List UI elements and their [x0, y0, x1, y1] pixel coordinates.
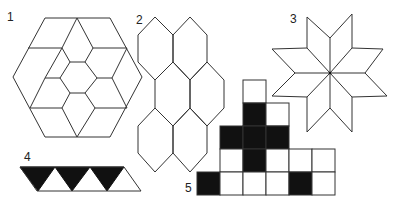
black-square — [220, 126, 243, 149]
black-triangle — [20, 167, 55, 191]
white-square — [312, 149, 335, 172]
hexagon-cell — [173, 108, 207, 172]
black-triangle — [55, 167, 90, 191]
star-center-dot — [329, 72, 332, 75]
hexagon-cell — [190, 62, 224, 126]
hexagon-cell — [138, 108, 173, 172]
black-triangle — [90, 167, 124, 191]
center-hexagon — [60, 62, 97, 93]
figure-2-label: 2 — [136, 13, 143, 27]
white-square — [312, 172, 335, 195]
figure-3-label: 3 — [290, 12, 297, 26]
black-square — [243, 149, 266, 172]
inner-rhombus-lines — [28, 18, 127, 137]
white-square — [243, 172, 266, 195]
hexagon-cell — [155, 62, 190, 126]
figure-1-hexagon-rhombus-tiling: 1 — [7, 10, 142, 137]
figure-2-honeycomb: 2 — [136, 13, 224, 172]
figure-4-label: 4 — [24, 150, 31, 164]
figure-1-label: 1 — [7, 10, 14, 24]
grid-cells — [197, 80, 335, 195]
black-square — [266, 126, 289, 149]
white-square — [266, 149, 289, 172]
figure-5-label: 5 — [185, 181, 192, 195]
white-square — [220, 172, 243, 195]
outer-hexagon — [13, 18, 142, 137]
white-square — [266, 172, 289, 195]
white-square — [289, 149, 312, 172]
black-square — [289, 172, 312, 195]
black-square — [243, 126, 266, 149]
tiling-diagram: 1 2 3 — [0, 0, 402, 210]
hexagon-cell — [173, 17, 207, 80]
hexagon-cell — [138, 17, 173, 80]
white-square — [266, 103, 289, 126]
black-square — [243, 103, 266, 126]
white-square — [220, 149, 243, 172]
black-square — [197, 172, 220, 195]
figure-4-triangle-strip: 4 — [20, 150, 141, 191]
white-square — [243, 80, 266, 103]
